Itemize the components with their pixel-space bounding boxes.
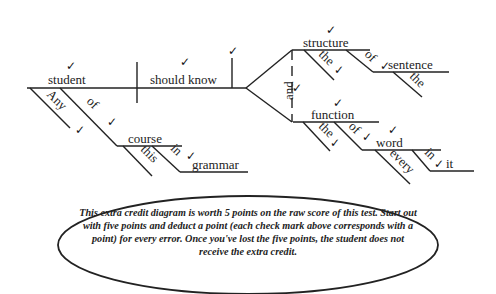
check-mark: ✓	[107, 115, 117, 129]
word-any: Any	[44, 87, 71, 114]
word-grammar: grammar	[192, 157, 240, 172]
extra-credit-note: This extra credit diagram is worth 5 poi…	[78, 206, 418, 258]
word-sentence: sentence	[388, 57, 433, 72]
check-mark: ✓	[228, 44, 238, 58]
check-mark: ✓	[66, 59, 76, 73]
check-mark: ✓	[334, 63, 344, 77]
check-mark: ✓	[362, 130, 372, 144]
word-student: student	[48, 72, 86, 87]
check-mark: ✓	[434, 157, 444, 171]
word-in: in	[168, 141, 186, 159]
word-it: it	[446, 156, 454, 171]
check-mark: ✓	[333, 96, 343, 110]
check-mark: ✓	[75, 123, 85, 137]
check-mark: ✓	[330, 136, 340, 150]
check-mark: ✓	[292, 81, 302, 95]
check-mark: ✓	[326, 23, 336, 37]
word-of: of	[84, 94, 103, 113]
word-should-know: should know	[150, 72, 217, 87]
check-mark: ✓	[388, 123, 398, 137]
check-mark: ✓	[180, 55, 190, 69]
